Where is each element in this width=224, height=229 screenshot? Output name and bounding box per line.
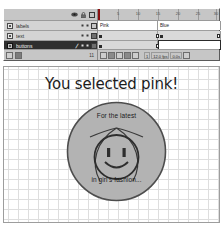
logo-bottom-text: in girl's fashion... xyxy=(66,176,167,184)
logo-graphic[interactable]: For the latest in girl's fashion... xyxy=(66,101,167,202)
lock-dot[interactable] xyxy=(87,25,88,26)
keyframe-marker[interactable] xyxy=(156,34,159,38)
frame-row-labels[interactable]: Pink Blue xyxy=(98,21,219,31)
outline-square-icon[interactable] xyxy=(89,12,95,18)
edit-multiple-frames-icon[interactable] xyxy=(124,52,131,59)
eye-icon[interactable] xyxy=(71,12,78,17)
layer-type-icon xyxy=(7,23,13,29)
onion-skin-icon[interactable] xyxy=(108,52,115,59)
keyframe-marker[interactable] xyxy=(156,44,159,48)
ruler-tick-10: 10 xyxy=(136,11,140,16)
keyframe-marker[interactable] xyxy=(99,35,102,38)
eye-dot[interactable] xyxy=(82,45,83,46)
pencil-edit-icon: / xyxy=(76,43,79,49)
lock-dot[interactable] xyxy=(87,45,88,46)
add-motion-guide-icon[interactable] xyxy=(15,52,22,59)
keyframe-marker[interactable] xyxy=(99,45,102,48)
ruler-tick-5: 5 xyxy=(117,11,119,16)
layer-type-icon xyxy=(7,33,13,39)
eye-dot[interactable] xyxy=(82,35,83,36)
modify-onion-markers-icon[interactable] xyxy=(132,52,139,59)
layer-count-label: 11 xyxy=(89,53,94,58)
lock-icon[interactable] xyxy=(81,12,86,18)
layer-visibility-dots[interactable] xyxy=(82,25,88,26)
layer-name-label[interactable]: buttons xyxy=(16,43,76,49)
insert-layer-icon[interactable] xyxy=(6,52,13,59)
current-frame-label: 1 xyxy=(144,52,150,59)
center-frame-icon[interactable] xyxy=(100,52,107,59)
ruler-tick-25: 25 xyxy=(196,11,200,16)
layer-toolbar: 11 xyxy=(4,49,97,60)
layer-row-text[interactable]: text xyxy=(4,31,97,41)
eye-dot[interactable] xyxy=(82,25,83,26)
stage-canvas[interactable]: You selected pink! For the latest in gir… xyxy=(3,66,220,223)
layer-visibility-dots[interactable] xyxy=(82,45,88,46)
layer-visibility-dots[interactable] xyxy=(82,35,88,36)
frame-label-pink: Pink xyxy=(100,23,109,28)
frame-grid-column: 5 10 15 20 25 30 Pink Blue xyxy=(97,9,219,60)
fps-label[interactable]: 12.0 fps xyxy=(151,52,169,59)
frame-label-blue: Blue xyxy=(160,23,169,28)
flash-authoring-window: labels text xyxy=(0,0,224,229)
scroll-right-icon[interactable] xyxy=(183,52,190,59)
keyframe-marker[interactable] xyxy=(160,35,163,38)
layer-type-icon xyxy=(7,43,13,49)
frame-span[interactable] xyxy=(158,31,221,40)
frame-span[interactable] xyxy=(98,31,158,40)
timeline-panel: labels text xyxy=(3,8,220,61)
elapsed-time-label: 0.0s xyxy=(170,52,182,59)
lock-dot[interactable] xyxy=(87,35,88,36)
layer-row-labels[interactable]: labels xyxy=(4,21,97,31)
frame-rows: Pink Blue xyxy=(98,21,219,51)
frame-end-marker[interactable] xyxy=(217,34,220,38)
layer-name-label[interactable]: text xyxy=(16,33,82,39)
ruler-tick-20: 20 xyxy=(176,11,180,16)
logo-top-text: For the latest xyxy=(66,112,167,120)
stage-headline-text[interactable]: You selected pink! xyxy=(4,76,219,93)
layer-column-header xyxy=(4,9,97,21)
ruler-tick-15: 15 xyxy=(156,11,160,16)
frame-ruler[interactable]: 5 10 15 20 25 30 xyxy=(98,9,219,21)
timeline-playback-toolbar: 1 12.0 fps 0.0s xyxy=(98,49,219,60)
playhead-marker[interactable] xyxy=(98,9,100,20)
layer-name-label[interactable]: labels xyxy=(16,23,82,29)
onion-skin-outlines-icon[interactable] xyxy=(116,52,123,59)
layer-list-column: labels text xyxy=(4,9,97,60)
ruler-tick-30: 30 xyxy=(214,11,218,16)
layer-rows: labels text xyxy=(4,21,97,51)
